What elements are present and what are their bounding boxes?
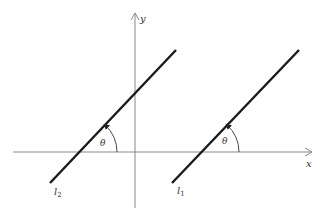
y-axis: y <box>135 13 146 208</box>
x-axis: x <box>13 152 312 169</box>
line-l2-label: l2 <box>54 186 62 199</box>
line-l1-label: l1 <box>177 185 185 198</box>
theta-label-l1: θ <box>222 136 228 146</box>
y-axis-label: y <box>139 13 146 24</box>
parallel-lines-diagram: x y l2 θ l1 θ <box>0 0 320 217</box>
theta-label-l2: θ <box>100 138 106 148</box>
x-axis-label: x <box>306 158 312 169</box>
line-l2: l2 <box>50 50 176 199</box>
line-l1: l1 <box>172 50 299 198</box>
